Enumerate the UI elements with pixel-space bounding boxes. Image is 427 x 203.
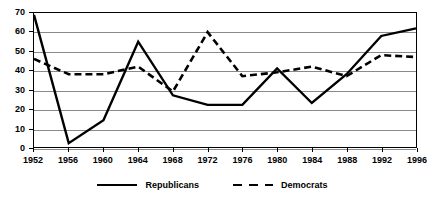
legend-item-democrats[interactable]: Democrats xyxy=(233,180,328,190)
x-tick-label: 1960 xyxy=(93,155,113,165)
y-tick-label: 50 xyxy=(15,46,25,55)
y-tick-label: 60 xyxy=(15,27,25,36)
x-tick-mark xyxy=(103,148,104,152)
series-layer xyxy=(34,13,416,147)
x-tick-mark xyxy=(68,148,69,152)
chart-legend: RepublicansDemocrats xyxy=(0,176,425,194)
x-tick-mark xyxy=(312,148,313,152)
plot-area xyxy=(33,12,417,148)
x-tick-label: 1956 xyxy=(58,155,78,165)
legend-swatch-solid-icon xyxy=(97,181,137,189)
y-axis: 010203040506070 xyxy=(0,0,33,160)
y-tick-label: 30 xyxy=(15,85,25,94)
x-axis-ticks xyxy=(33,148,417,153)
x-tick-label: 1952 xyxy=(23,155,43,165)
x-tick-mark xyxy=(33,148,34,152)
y-tick-label: 70 xyxy=(15,8,25,17)
x-tick-label: 1976 xyxy=(232,155,252,165)
y-tick-label: 20 xyxy=(15,105,25,114)
x-tick-label: 1996 xyxy=(407,155,427,165)
legend-swatch-dashed-icon xyxy=(233,181,273,189)
x-tick-label: 1972 xyxy=(198,155,218,165)
x-tick-mark xyxy=(417,148,418,152)
x-tick-mark xyxy=(138,148,139,152)
x-axis: 1952195619601964196819721976198019841988… xyxy=(33,155,417,167)
x-tick-mark xyxy=(242,148,243,152)
legend-label: Republicans xyxy=(145,180,199,190)
x-tick-mark xyxy=(173,148,174,152)
x-tick-label: 1964 xyxy=(128,155,148,165)
y-tick-label: 10 xyxy=(15,124,25,133)
x-tick-mark xyxy=(277,148,278,152)
x-tick-label: 1980 xyxy=(267,155,287,165)
y-tick-label: 40 xyxy=(15,66,25,75)
legend-item-republicans[interactable]: Republicans xyxy=(97,180,199,190)
y-tick-label: 0 xyxy=(20,144,25,153)
series-line-republicans xyxy=(34,15,416,143)
x-tick-label: 1988 xyxy=(337,155,357,165)
x-tick-mark xyxy=(382,148,383,152)
x-tick-label: 1984 xyxy=(302,155,322,165)
x-tick-mark xyxy=(347,148,348,152)
x-tick-mark xyxy=(208,148,209,152)
x-tick-label: 1968 xyxy=(163,155,183,165)
x-tick-label: 1992 xyxy=(372,155,392,165)
legend-label: Democrats xyxy=(281,180,328,190)
